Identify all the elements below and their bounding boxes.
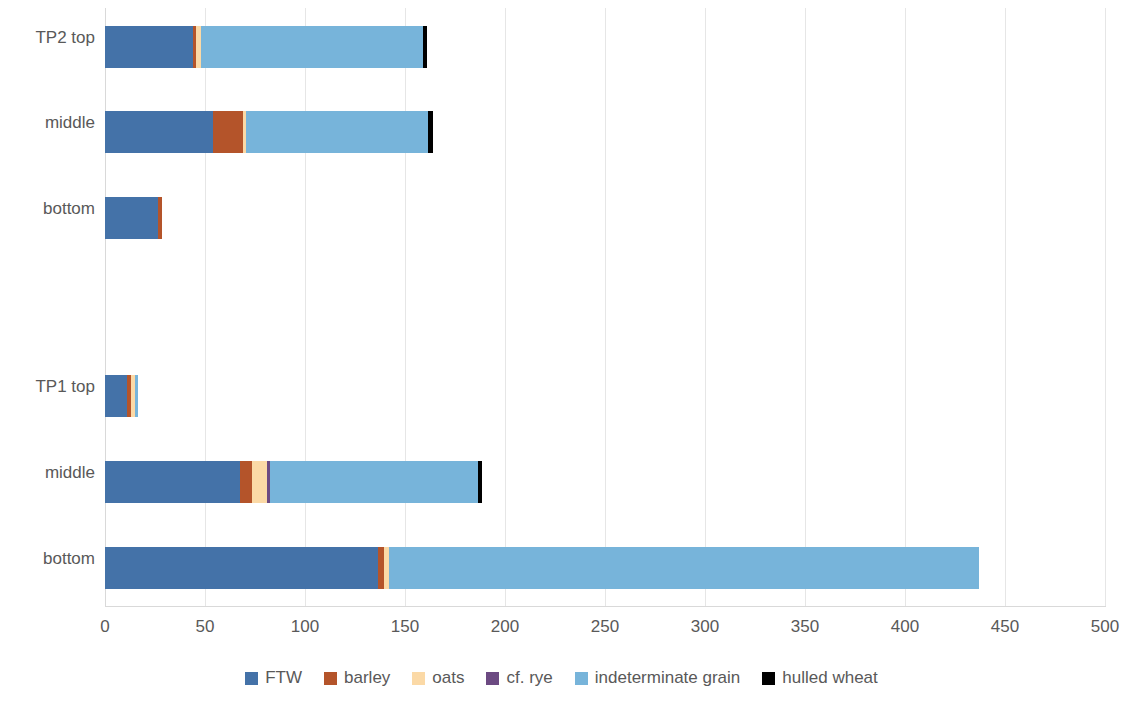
x-axis-tick-label: 350 <box>775 617 835 637</box>
y-axis-label: TP2 top <box>0 28 95 48</box>
y-axis-label: middle <box>0 463 95 483</box>
legend-swatch-icon <box>412 672 425 685</box>
bar-segment[interactable] <box>389 547 979 589</box>
legend-swatch-icon <box>486 672 499 685</box>
stacked-bar-chart: TP2 topmiddlebottomTP1 topmiddlebottom 0… <box>0 0 1123 708</box>
x-axis-line <box>105 606 1106 607</box>
bar-segment[interactable] <box>246 111 428 153</box>
legend-item[interactable]: hulled wheat <box>762 668 877 688</box>
gridline-250 <box>605 8 606 606</box>
x-axis-tick-label: 50 <box>175 617 235 637</box>
gridline-450 <box>1005 8 1006 606</box>
gridline-50 <box>205 8 206 606</box>
bar-segment[interactable] <box>105 547 378 589</box>
bar-row[interactable] <box>105 461 482 503</box>
y-axis-label: TP1 top <box>0 377 95 397</box>
legend-swatch-icon <box>575 672 588 685</box>
bar-segment[interactable] <box>105 375 127 417</box>
gridline-500 <box>1105 8 1106 606</box>
bar-segment[interactable] <box>423 26 427 68</box>
gridline-100 <box>305 8 306 606</box>
x-axis-tick-label: 250 <box>575 617 635 637</box>
bar-segment[interactable] <box>428 111 433 153</box>
x-axis-tick-label: 300 <box>675 617 735 637</box>
y-axis-label: bottom <box>0 199 95 219</box>
legend-item[interactable]: indeterminate grain <box>575 668 741 688</box>
legend-item[interactable]: FTW <box>245 668 302 688</box>
plot-area <box>105 8 1105 606</box>
bar-segment[interactable] <box>105 197 158 239</box>
y-axis-label: middle <box>0 113 95 133</box>
legend-item[interactable]: oats <box>412 668 464 688</box>
bar-segment[interactable] <box>135 375 138 417</box>
legend-item[interactable]: barley <box>324 668 390 688</box>
chart-legend: FTWbarleyoatscf. ryeindeterminate grainh… <box>0 668 1123 688</box>
gridline-350 <box>805 8 806 606</box>
legend-swatch-icon <box>245 672 258 685</box>
x-axis-tick-label: 200 <box>475 617 535 637</box>
legend-item[interactable]: cf. rye <box>486 668 552 688</box>
bar-segment[interactable] <box>105 461 240 503</box>
y-axis-label: bottom <box>0 549 95 569</box>
legend-swatch-icon <box>324 672 337 685</box>
legend-label: oats <box>432 668 464 688</box>
axis-zero-line <box>105 8 106 606</box>
legend-label: barley <box>344 668 390 688</box>
x-axis-tick-label: 100 <box>275 617 335 637</box>
bar-segment[interactable] <box>270 461 478 503</box>
x-axis-tick-label: 450 <box>975 617 1035 637</box>
gridline-200 <box>505 8 506 606</box>
bar-row[interactable] <box>105 197 162 239</box>
bar-segment[interactable] <box>252 461 267 503</box>
x-axis-tick-label: 0 <box>75 617 135 637</box>
bar-row[interactable] <box>105 375 138 417</box>
x-axis-tick-label: 500 <box>1075 617 1123 637</box>
bar-segment[interactable] <box>478 461 482 503</box>
x-axis-tick-label: 150 <box>375 617 435 637</box>
gridline-300 <box>705 8 706 606</box>
bar-segment[interactable] <box>240 461 252 503</box>
bar-row[interactable] <box>105 547 979 589</box>
bar-row[interactable] <box>105 26 427 68</box>
bar-row[interactable] <box>105 111 433 153</box>
legend-label: cf. rye <box>506 668 552 688</box>
bar-segment[interactable] <box>158 197 162 239</box>
legend-swatch-icon <box>762 672 775 685</box>
legend-label: FTW <box>265 668 302 688</box>
legend-label: indeterminate grain <box>595 668 741 688</box>
bar-segment[interactable] <box>201 26 423 68</box>
bar-segment[interactable] <box>105 26 193 68</box>
bar-segment[interactable] <box>213 111 243 153</box>
x-axis-tick-label: 400 <box>875 617 935 637</box>
gridline-150 <box>405 8 406 606</box>
bar-segment[interactable] <box>105 111 213 153</box>
legend-label: hulled wheat <box>782 668 877 688</box>
gridline-400 <box>905 8 906 606</box>
